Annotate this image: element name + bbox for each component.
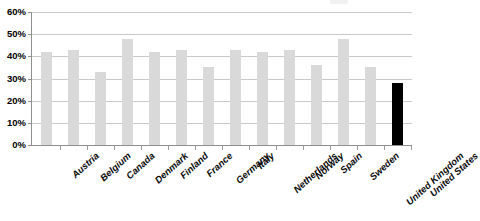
y-tick-mark bbox=[28, 145, 32, 146]
y-tick-mark bbox=[28, 12, 32, 13]
bar[interactable] bbox=[149, 52, 160, 145]
y-tick-mark bbox=[28, 56, 32, 57]
y-tick-mark bbox=[28, 123, 32, 124]
y-tick-mark bbox=[28, 101, 32, 102]
bar[interactable] bbox=[311, 65, 322, 145]
x-tick-mark bbox=[60, 146, 61, 150]
y-tick-label: 10% bbox=[0, 118, 26, 128]
y-tick-label: 50% bbox=[0, 29, 26, 39]
x-tick-label: Austria bbox=[69, 150, 101, 180]
x-tick-mark bbox=[87, 146, 88, 150]
x-tick-mark bbox=[249, 146, 250, 150]
x-tick-mark bbox=[276, 146, 277, 150]
x-tick-label: France bbox=[204, 150, 235, 179]
x-tick-mark bbox=[141, 146, 142, 150]
y-tick-label: 60% bbox=[0, 7, 26, 17]
y-tick-mark bbox=[28, 79, 32, 80]
bar[interactable] bbox=[338, 39, 349, 145]
bar[interactable] bbox=[284, 50, 295, 145]
x-tick-mark bbox=[222, 146, 223, 150]
bars-layer bbox=[31, 12, 412, 145]
x-axis-tick-labels: AustriaBelgiumCanadaDenmarkFinlandFrance… bbox=[31, 150, 414, 221]
x-tick-mark bbox=[330, 146, 331, 150]
x-tick-label: Sweden bbox=[367, 150, 401, 182]
x-tick-mark bbox=[411, 146, 412, 150]
y-axis-tick-labels: 60%50%40%30%20%10%0% bbox=[0, 0, 28, 221]
cropped-title-remnant bbox=[330, 0, 348, 4]
y-tick-label: 20% bbox=[0, 96, 26, 106]
x-tick-mark bbox=[357, 146, 358, 150]
x-tick-mark bbox=[303, 146, 304, 150]
bar[interactable] bbox=[257, 52, 268, 145]
x-tick-mark bbox=[168, 146, 169, 150]
x-tick-mark bbox=[114, 146, 115, 150]
bar[interactable] bbox=[230, 50, 241, 145]
bar[interactable] bbox=[176, 50, 187, 145]
y-tick-label: 0% bbox=[0, 140, 26, 150]
y-tick-mark bbox=[28, 34, 32, 35]
bar[interactable] bbox=[122, 39, 133, 145]
bar[interactable] bbox=[365, 67, 376, 145]
bar[interactable] bbox=[68, 50, 79, 145]
bar[interactable] bbox=[203, 67, 214, 145]
y-tick-label: 40% bbox=[0, 51, 26, 61]
y-tick-label: 30% bbox=[0, 74, 26, 84]
bar[interactable] bbox=[95, 72, 106, 145]
x-tick-mark bbox=[195, 146, 196, 150]
bar[interactable] bbox=[41, 52, 52, 145]
bar[interactable] bbox=[392, 83, 403, 145]
x-tick-label: Belgium bbox=[98, 150, 133, 183]
x-tick-mark bbox=[384, 146, 385, 150]
